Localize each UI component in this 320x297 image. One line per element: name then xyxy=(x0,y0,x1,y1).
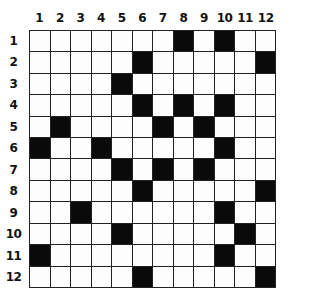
white-cell[interactable] xyxy=(112,245,132,265)
white-cell[interactable] xyxy=(30,224,50,244)
white-cell[interactable] xyxy=(133,74,153,94)
white-cell[interactable] xyxy=(256,224,276,244)
white-cell[interactable] xyxy=(133,202,153,222)
white-cell[interactable] xyxy=(51,159,71,179)
white-cell[interactable] xyxy=(153,224,173,244)
white-cell[interactable] xyxy=(51,95,71,115)
white-cell[interactable] xyxy=(235,181,255,201)
white-cell[interactable] xyxy=(215,181,235,201)
white-cell[interactable] xyxy=(71,267,91,287)
white-cell[interactable] xyxy=(174,117,194,137)
white-cell[interactable] xyxy=(133,245,153,265)
white-cell[interactable] xyxy=(112,138,132,158)
white-cell[interactable] xyxy=(256,202,276,222)
white-cell[interactable] xyxy=(92,245,112,265)
white-cell[interactable] xyxy=(256,138,276,158)
white-cell[interactable] xyxy=(71,159,91,179)
white-cell[interactable] xyxy=(92,159,112,179)
white-cell[interactable] xyxy=(235,52,255,72)
white-cell[interactable] xyxy=(215,159,235,179)
white-cell[interactable] xyxy=(51,224,71,244)
white-cell[interactable] xyxy=(92,224,112,244)
white-cell[interactable] xyxy=(174,159,194,179)
white-cell[interactable] xyxy=(235,202,255,222)
white-cell[interactable] xyxy=(256,31,276,51)
white-cell[interactable] xyxy=(235,117,255,137)
white-cell[interactable] xyxy=(215,52,235,72)
white-cell[interactable] xyxy=(30,117,50,137)
white-cell[interactable] xyxy=(92,31,112,51)
white-cell[interactable] xyxy=(174,181,194,201)
white-cell[interactable] xyxy=(112,267,132,287)
white-cell[interactable] xyxy=(30,31,50,51)
white-cell[interactable] xyxy=(256,159,276,179)
white-cell[interactable] xyxy=(51,181,71,201)
white-cell[interactable] xyxy=(112,117,132,137)
white-cell[interactable] xyxy=(194,52,214,72)
white-cell[interactable] xyxy=(194,224,214,244)
white-cell[interactable] xyxy=(256,95,276,115)
white-cell[interactable] xyxy=(71,245,91,265)
white-cell[interactable] xyxy=(194,181,214,201)
white-cell[interactable] xyxy=(153,52,173,72)
white-cell[interactable] xyxy=(71,138,91,158)
white-cell[interactable] xyxy=(112,31,132,51)
white-cell[interactable] xyxy=(92,95,112,115)
white-cell[interactable] xyxy=(30,202,50,222)
white-cell[interactable] xyxy=(92,267,112,287)
white-cell[interactable] xyxy=(194,202,214,222)
white-cell[interactable] xyxy=(194,245,214,265)
white-cell[interactable] xyxy=(133,224,153,244)
white-cell[interactable] xyxy=(30,95,50,115)
white-cell[interactable] xyxy=(153,181,173,201)
white-cell[interactable] xyxy=(194,31,214,51)
white-cell[interactable] xyxy=(235,74,255,94)
white-cell[interactable] xyxy=(194,95,214,115)
white-cell[interactable] xyxy=(174,138,194,158)
white-cell[interactable] xyxy=(174,224,194,244)
white-cell[interactable] xyxy=(92,202,112,222)
white-cell[interactable] xyxy=(256,117,276,137)
white-cell[interactable] xyxy=(153,74,173,94)
white-cell[interactable] xyxy=(133,159,153,179)
white-cell[interactable] xyxy=(194,267,214,287)
white-cell[interactable] xyxy=(235,159,255,179)
white-cell[interactable] xyxy=(71,31,91,51)
white-cell[interactable] xyxy=(235,267,255,287)
white-cell[interactable] xyxy=(71,181,91,201)
white-cell[interactable] xyxy=(71,52,91,72)
white-cell[interactable] xyxy=(92,117,112,137)
white-cell[interactable] xyxy=(174,245,194,265)
white-cell[interactable] xyxy=(92,52,112,72)
white-cell[interactable] xyxy=(51,31,71,51)
white-cell[interactable] xyxy=(51,52,71,72)
white-cell[interactable] xyxy=(153,267,173,287)
white-cell[interactable] xyxy=(71,117,91,137)
white-cell[interactable] xyxy=(235,138,255,158)
white-cell[interactable] xyxy=(174,267,194,287)
white-cell[interactable] xyxy=(71,224,91,244)
white-cell[interactable] xyxy=(256,245,276,265)
white-cell[interactable] xyxy=(92,74,112,94)
white-cell[interactable] xyxy=(215,267,235,287)
white-cell[interactable] xyxy=(133,31,153,51)
white-cell[interactable] xyxy=(51,138,71,158)
white-cell[interactable] xyxy=(112,181,132,201)
white-cell[interactable] xyxy=(235,95,255,115)
white-cell[interactable] xyxy=(30,52,50,72)
white-cell[interactable] xyxy=(51,267,71,287)
white-cell[interactable] xyxy=(133,138,153,158)
white-cell[interactable] xyxy=(112,52,132,72)
white-cell[interactable] xyxy=(174,52,194,72)
white-cell[interactable] xyxy=(174,202,194,222)
white-cell[interactable] xyxy=(194,74,214,94)
white-cell[interactable] xyxy=(235,245,255,265)
white-cell[interactable] xyxy=(133,117,153,137)
white-cell[interactable] xyxy=(71,74,91,94)
white-cell[interactable] xyxy=(194,138,214,158)
white-cell[interactable] xyxy=(256,74,276,94)
white-cell[interactable] xyxy=(112,95,132,115)
white-cell[interactable] xyxy=(235,31,255,51)
white-cell[interactable] xyxy=(92,181,112,201)
white-cell[interactable] xyxy=(30,181,50,201)
